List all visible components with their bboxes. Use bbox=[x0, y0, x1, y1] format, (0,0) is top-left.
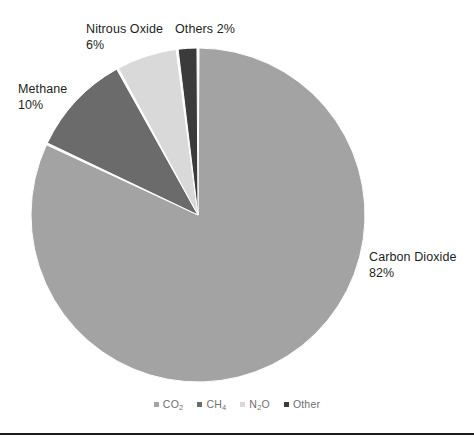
legend-label-ch4: CH4 bbox=[206, 398, 226, 410]
slice-label-others: Others 2% bbox=[175, 22, 235, 38]
legend-item-ch4[interactable]: CH4 bbox=[197, 398, 226, 410]
pie-slice-group bbox=[31, 48, 365, 382]
page-footer-clipped-text bbox=[0, 437, 474, 445]
slice-label-methane-name: Methane bbox=[18, 82, 67, 96]
legend-swatch-icon bbox=[197, 402, 202, 407]
legend-item-co2[interactable]: CO2 bbox=[154, 398, 184, 410]
slice-label-carbon-dioxide-name: Carbon Dioxide bbox=[369, 250, 457, 264]
footer-divider-rule bbox=[0, 433, 474, 435]
slice-label-carbon-dioxide-pct: 82% bbox=[369, 266, 457, 282]
legend-item-n2o[interactable]: N2O bbox=[240, 398, 270, 410]
legend-swatch-icon bbox=[154, 402, 159, 407]
slice-label-methane: Methane 10% bbox=[18, 82, 67, 113]
slice-label-carbon-dioxide: Carbon Dioxide 82% bbox=[369, 250, 457, 281]
pie-chart-figure: Methane 10% Nitrous Oxide 6% Others 2% C… bbox=[0, 0, 474, 445]
legend-label-co2: CO2 bbox=[163, 398, 184, 410]
legend-label-n2o: N2O bbox=[249, 398, 270, 410]
legend-swatch-icon bbox=[284, 402, 289, 407]
slice-label-nitrous-oxide: Nitrous Oxide 6% bbox=[86, 22, 163, 53]
pie-chart-plot-area: Methane 10% Nitrous Oxide 6% Others 2% C… bbox=[0, 0, 474, 400]
legend-swatch-icon bbox=[240, 402, 245, 407]
legend-label-other: Other bbox=[293, 398, 320, 410]
pie-chart-svg bbox=[0, 0, 474, 400]
slice-label-methane-pct: 10% bbox=[18, 98, 67, 114]
chart-legend: CO2CH4N2OOther bbox=[0, 398, 474, 410]
legend-item-other[interactable]: Other bbox=[284, 398, 320, 410]
slice-label-nitrous-oxide-name: Nitrous Oxide bbox=[86, 22, 163, 36]
slice-label-others-name: Others 2% bbox=[175, 22, 235, 36]
slice-label-nitrous-oxide-pct: 6% bbox=[86, 38, 163, 54]
